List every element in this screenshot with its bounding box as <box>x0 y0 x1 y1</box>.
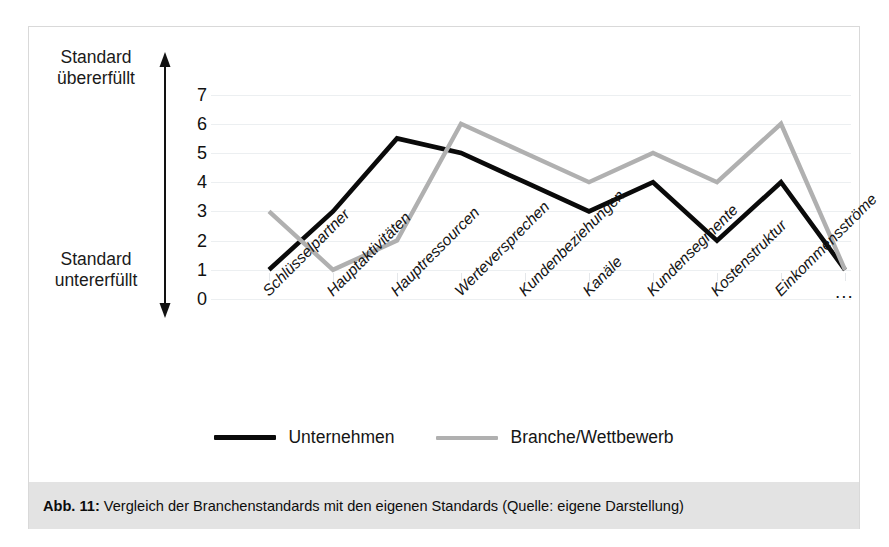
x-axis-label: ... <box>835 281 854 303</box>
legend-label: Unternehmen <box>288 427 394 448</box>
double-arrow-icon <box>157 52 173 318</box>
y-tick-label: 0 <box>177 290 207 308</box>
y-axis-ticks: 76543210 <box>177 27 207 327</box>
axis-annotation-bottom: Standard untererfüllt <box>37 249 155 290</box>
caption-figure-number: Abb. 11: <box>43 498 100 514</box>
legend-color-swatch <box>214 435 276 440</box>
legend-item[interactable]: Unternehmen <box>214 427 394 448</box>
y-tick-label: 2 <box>177 232 207 250</box>
legend-color-swatch <box>436 436 498 440</box>
legend-item[interactable]: Branche/Wettbewerb <box>436 427 673 448</box>
caption-body-text: Vergleich der Branchenstandards mit den … <box>100 498 684 514</box>
y-tick-label: 5 <box>177 144 207 162</box>
y-tick-label: 7 <box>177 86 207 104</box>
figure-caption-text: Abb. 11: Vergleich der Branchenstandards… <box>43 498 684 514</box>
chart-plot-area: Standard übererfüllt Standard untererfül… <box>29 27 859 459</box>
chart-legend: UnternehmenBranche/Wettbewerb <box>29 427 859 448</box>
y-tick-label: 6 <box>177 115 207 133</box>
y-tick-label: 3 <box>177 202 207 220</box>
axis-annotation-top: Standard übererfüllt <box>37 47 155 88</box>
figure-caption-bar: Abb. 11: Vergleich der Branchenstandards… <box>29 482 859 529</box>
x-axis-labels: SchlüsselpartnerHauptaktivitätenHauptres… <box>211 277 859 447</box>
y-tick-label: 4 <box>177 173 207 191</box>
legend-label: Branche/Wettbewerb <box>510 427 673 448</box>
figure-frame: Standard übererfüllt Standard untererfül… <box>28 26 860 529</box>
y-tick-label: 1 <box>177 261 207 279</box>
